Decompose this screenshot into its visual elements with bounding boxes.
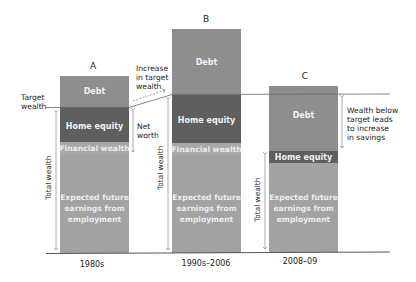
target-wealth-label-1: Target	[20, 93, 45, 102]
bar-b-period: 1990s–2006	[182, 259, 231, 268]
bar-c-earnings-label-2: earnings from	[273, 204, 333, 213]
increase-arrow-icon	[133, 90, 165, 101]
increase-label-2: in target	[136, 73, 168, 82]
total-wealth-label-b: Total wealth	[156, 145, 165, 191]
bar-b-financial-wealth-label: Financial wealth	[171, 145, 241, 154]
bar-a: Debt Home equity Financial wealth Expect…	[59, 61, 129, 269]
bar-a-earnings-label-1: Expected future	[60, 193, 129, 202]
wealth-below-label-2: target leads	[347, 115, 393, 124]
bar-c-home-equity-label: Home equity	[275, 153, 333, 162]
bar-a-period: 1980s	[80, 260, 105, 269]
bar-b-title: B	[203, 14, 209, 24]
bar-b-earnings-label-2: earnings from	[176, 204, 236, 213]
bar-b: Debt Home equity Financial wealth Expect…	[171, 14, 241, 268]
bar-a-home-equity-label: Home equity	[66, 122, 124, 131]
bar-b-earnings-label-1: Expected future	[172, 193, 241, 202]
bar-a-earnings-label-3: employment	[68, 215, 122, 224]
wealth-below-label-4: in savings	[347, 133, 385, 142]
wealth-below-label-1: Wealth below	[347, 106, 398, 115]
bar-b-debt-label: Debt	[196, 58, 218, 67]
increase-label-1: Increase	[136, 64, 168, 73]
bar-c-title: C	[302, 71, 308, 81]
bar-a-debt-label: Debt	[84, 87, 106, 96]
bar-c-earnings-label-1: Expected future	[269, 193, 338, 202]
bar-a-earnings-label-2: earnings from	[64, 204, 124, 213]
bar-c-debt-label: Debt	[293, 111, 315, 120]
wealth-diagram: Debt Home equity Financial wealth Expect…	[0, 0, 416, 282]
total-wealth-label-c: Total wealth	[253, 177, 262, 223]
bar-c: Debt Home equity Expected future earning…	[269, 71, 338, 266]
net-worth-label-2: worth	[137, 131, 159, 140]
bar-a-financial-wealth-label: Financial wealth	[59, 144, 129, 153]
increase-label-3: wealth	[136, 82, 162, 91]
bar-c-period: 2008–09	[283, 257, 318, 266]
wealth-below-label-3: to increase	[347, 124, 389, 133]
total-wealth-label-a: Total wealth	[44, 155, 53, 201]
net-worth-label-1: Net	[137, 122, 150, 131]
bar-b-home-equity-label: Home equity	[178, 116, 236, 125]
bar-b-earnings-label-3: employment	[180, 215, 234, 224]
bar-c-earnings-label-3: employment	[277, 215, 331, 224]
target-wealth-label-2: wealth	[21, 102, 47, 111]
bar-a-title: A	[90, 61, 97, 71]
